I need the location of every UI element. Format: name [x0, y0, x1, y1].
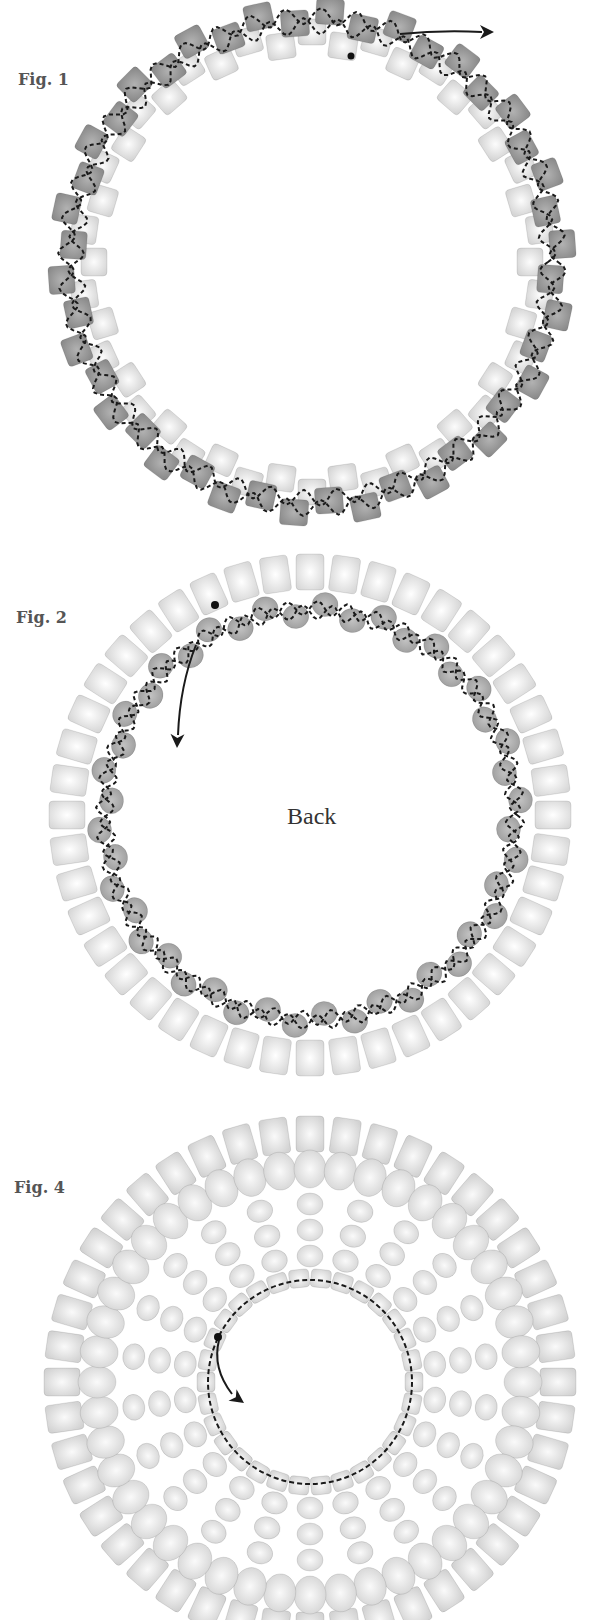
round-bead [101, 842, 130, 873]
spoke-bead [133, 1440, 164, 1473]
outer-cube-bead [360, 561, 397, 603]
spoke-bead [121, 1393, 146, 1422]
spoke-bead [297, 1523, 323, 1545]
outer-dark-bead [414, 464, 451, 500]
back-label: Back [287, 803, 336, 830]
outer-round-bead [322, 1150, 359, 1192]
outer-cube-bead [223, 1027, 260, 1069]
spoke-bead [259, 1489, 290, 1517]
spoke-bead [345, 1539, 376, 1567]
outer-cube-bead [531, 833, 571, 866]
outer-cube-bead [50, 833, 90, 866]
spoke-bead [156, 1302, 187, 1335]
spoke-bead [244, 1539, 275, 1567]
outer-dark-bead [494, 93, 532, 131]
spoke-bead [337, 1514, 368, 1542]
outer-dark-bead [115, 65, 153, 103]
figure-4-diagram [0, 1090, 608, 1620]
inner-cube-bead [310, 1269, 332, 1289]
outer-cube-bead [259, 1036, 292, 1076]
spoke-bead [259, 1247, 290, 1275]
outer-cube-bead [535, 801, 571, 829]
outer-cube-bead [259, 555, 292, 595]
outer-cube-bead [328, 555, 361, 595]
spoke-bead [133, 1292, 164, 1325]
spoke-bead [433, 1429, 464, 1462]
outer-cube-bead [531, 764, 571, 797]
round-bead [310, 1001, 338, 1027]
spoke-bead [433, 1302, 464, 1335]
outer-round-bead [294, 1150, 326, 1188]
spoke-bead [473, 1393, 498, 1422]
spoke-bead [422, 1385, 447, 1414]
outer-cube-bead [258, 1117, 291, 1157]
outer-dark-bead [60, 332, 94, 367]
outer-cube-bead [296, 554, 324, 590]
outer-cube-bead [56, 865, 98, 902]
outer-cube-bead [45, 1330, 85, 1363]
outer-round-bead [504, 1366, 542, 1398]
outer-cube-bead [360, 1027, 397, 1069]
outer-cube-bead [329, 1117, 362, 1157]
outer-cube-bead [522, 728, 564, 765]
outer-cube-bead [45, 1401, 85, 1434]
direction-arrow-head [170, 734, 184, 748]
spoke-bead [473, 1342, 498, 1371]
outer-cube-bead [50, 764, 90, 797]
outer-round-bead [261, 1572, 298, 1614]
outer-cube-bead [540, 1368, 576, 1396]
outer-cube-bead [223, 561, 260, 603]
outer-cube-bead [536, 1401, 576, 1434]
outer-dark-bead [349, 492, 382, 523]
spoke-bead [121, 1342, 146, 1371]
thread-start-dot [348, 53, 355, 60]
spoke-bead [173, 1350, 198, 1379]
outer-round-bead [78, 1333, 120, 1370]
outer-dark-bead [530, 195, 561, 228]
spoke-bead [330, 1489, 361, 1517]
outer-cube-bead [536, 1330, 576, 1363]
outer-round-bead [500, 1333, 542, 1370]
inner-cube-bead [405, 1372, 423, 1392]
outer-round-bead [500, 1394, 542, 1431]
outer-cube-bead [222, 1123, 259, 1165]
outer-dark-bead [530, 157, 564, 192]
spoke-bead [337, 1222, 368, 1250]
outer-cube-bead [522, 865, 564, 902]
outer-round-bead [294, 1576, 326, 1614]
spoke-bead [448, 1389, 473, 1418]
spoke-bead [147, 1346, 172, 1375]
outer-cube-bead [527, 1294, 569, 1331]
spoke-bead [457, 1440, 488, 1473]
thread-start-dot [214, 1333, 222, 1341]
outer-cube-bead [328, 1036, 361, 1076]
inner-cube-bead [288, 1475, 310, 1495]
outer-cube-bead [51, 1294, 93, 1331]
spoke-bead [345, 1197, 376, 1225]
spoke-bead [173, 1385, 198, 1414]
spoke-bead [252, 1222, 283, 1250]
outer-cube-bead [56, 728, 98, 765]
outer-round-bead [78, 1366, 116, 1398]
exit-arrow-head [480, 25, 494, 39]
outer-cube-bead [361, 1123, 398, 1165]
round-bead [133, 678, 168, 713]
outer-dark-bead [542, 299, 573, 332]
spoke-bead [297, 1219, 323, 1241]
outer-round-bead [261, 1150, 298, 1192]
outer-cube-bead [527, 1433, 569, 1470]
spoke-bead [297, 1549, 323, 1571]
outer-cube-bead [51, 1433, 93, 1470]
spoke-bead [330, 1247, 361, 1275]
round-bead [152, 938, 187, 973]
inner-cube-bead [288, 1269, 310, 1289]
outer-cube-bead [44, 1368, 80, 1396]
outer-dark-bead [470, 420, 508, 458]
inner-cube-bead [197, 1349, 219, 1372]
spoke-bead [422, 1350, 447, 1379]
round-bead [496, 815, 522, 843]
outer-dark-bead [548, 229, 576, 259]
outer-dark-bead [92, 393, 130, 431]
spoke-bead [147, 1389, 172, 1418]
inner-cube-bead [197, 1372, 215, 1392]
